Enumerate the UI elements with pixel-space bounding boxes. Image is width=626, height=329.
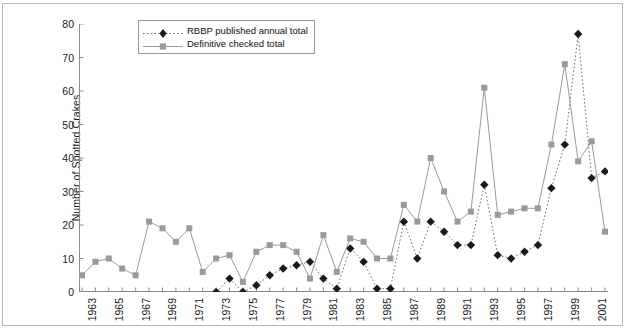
data-point-marker [307, 276, 313, 282]
chart-frame: Number of Spotted Crakes 010203040506070… [2, 3, 623, 326]
data-point-marker [173, 239, 179, 245]
data-point-marker [266, 271, 274, 279]
data-point-marker [574, 30, 582, 38]
x-tick-label: 1967 [140, 298, 152, 321]
legend-label-rbbp: RBBP published annual total [187, 25, 308, 36]
x-tick-label: 1973 [220, 298, 232, 321]
data-point-marker [239, 288, 247, 292]
chart-page: Number of Spotted Crakes 010203040506070… [0, 0, 626, 329]
data-point-marker [441, 189, 447, 195]
data-point-marker [481, 85, 487, 91]
data-point-marker [602, 229, 608, 235]
data-point-marker [79, 272, 85, 278]
data-point-marker [106, 256, 112, 262]
y-tick-label: 10 [62, 253, 74, 265]
data-point-marker [347, 235, 353, 241]
data-point-marker [587, 174, 595, 182]
data-point-marker [561, 140, 569, 148]
data-point-marker [601, 167, 608, 175]
data-point-marker [227, 252, 233, 258]
y-tick-label: 40 [62, 152, 74, 164]
legend-item-definitive: Definitive checked total [143, 37, 308, 50]
x-tick-label: 2001 [596, 298, 608, 321]
chart-legend: RBBP published annual total Definitive c… [138, 20, 315, 54]
data-point-marker [467, 241, 475, 249]
x-tick-label: 1997 [542, 298, 554, 321]
data-point-marker [428, 155, 434, 161]
data-point-marker [495, 212, 501, 218]
y-tick-label: 80 [62, 18, 74, 30]
x-tick-label: 1969 [166, 298, 178, 321]
data-point-marker [535, 205, 541, 211]
data-point-marker [146, 219, 152, 225]
chart-svg [79, 24, 608, 292]
x-tick-label: 1999 [569, 298, 581, 321]
y-tick-label: 60 [62, 85, 74, 97]
legend-label-definitive: Definitive checked total [187, 38, 285, 49]
data-point-marker [575, 158, 581, 164]
data-point-marker [320, 232, 326, 238]
x-tick-label: 1987 [408, 298, 420, 321]
x-tick-label: 1963 [86, 298, 98, 321]
data-point-marker [480, 181, 488, 189]
data-point-marker [468, 209, 474, 215]
legend-item-rbbp: RBBP published annual total [143, 24, 308, 37]
data-point-marker [92, 259, 98, 265]
x-tick-label: 1991 [461, 298, 473, 321]
data-point-marker [520, 248, 528, 256]
data-point-marker [253, 249, 259, 255]
x-tick-label: 1979 [301, 298, 313, 321]
data-point-marker [280, 242, 286, 248]
data-point-marker [306, 258, 314, 266]
series-line [82, 64, 605, 282]
data-point-marker [213, 256, 219, 262]
data-point-marker [387, 256, 393, 262]
data-point-marker [507, 254, 515, 262]
plot-area: Number of Spotted Crakes 010203040506070… [79, 24, 608, 292]
data-point-marker [508, 209, 514, 215]
y-tick-label: 30 [62, 186, 74, 198]
data-point-marker [186, 225, 192, 231]
data-point-marker [413, 254, 421, 262]
legend-key-definitive [143, 38, 183, 49]
data-point-marker [534, 241, 542, 249]
data-point-marker [386, 284, 394, 292]
y-tick-label: 20 [62, 219, 74, 231]
y-tick-label: 70 [62, 52, 74, 64]
data-point-marker [494, 251, 502, 259]
data-point-marker [294, 249, 300, 255]
data-point-marker [414, 219, 420, 225]
data-point-marker [292, 261, 300, 269]
data-point-marker [522, 205, 528, 211]
data-point-marker [562, 61, 568, 67]
x-tick-label: 1983 [354, 298, 366, 321]
x-tick-label: 1989 [435, 298, 447, 321]
y-tick-label: 0 [68, 286, 74, 298]
data-point-marker [361, 239, 367, 245]
data-point-marker [547, 184, 555, 192]
data-point-marker [200, 269, 206, 275]
data-point-marker [160, 225, 166, 231]
x-tick-label: 1993 [488, 298, 500, 321]
data-point-marker [373, 284, 381, 292]
x-tick-label: 1985 [381, 298, 393, 321]
data-point-marker [133, 272, 139, 278]
legend-key-rbbp [143, 25, 183, 36]
data-point-marker [359, 258, 367, 266]
data-point-marker [333, 284, 341, 292]
data-point-marker [279, 264, 287, 272]
y-tick-label: 50 [62, 119, 74, 131]
x-tick-label: 1965 [113, 298, 125, 321]
data-point-marker [548, 142, 554, 148]
data-point-marker [374, 256, 380, 262]
x-tick-label: 1971 [193, 298, 205, 321]
data-point-marker [119, 266, 125, 272]
data-point-marker [240, 279, 246, 285]
series-line [216, 34, 605, 292]
data-point-marker [267, 242, 273, 248]
data-point-marker [334, 269, 340, 275]
data-point-marker [426, 217, 434, 225]
data-point-marker [455, 219, 461, 225]
x-tick-label: 1995 [515, 298, 527, 321]
x-tick-label: 1977 [274, 298, 286, 321]
